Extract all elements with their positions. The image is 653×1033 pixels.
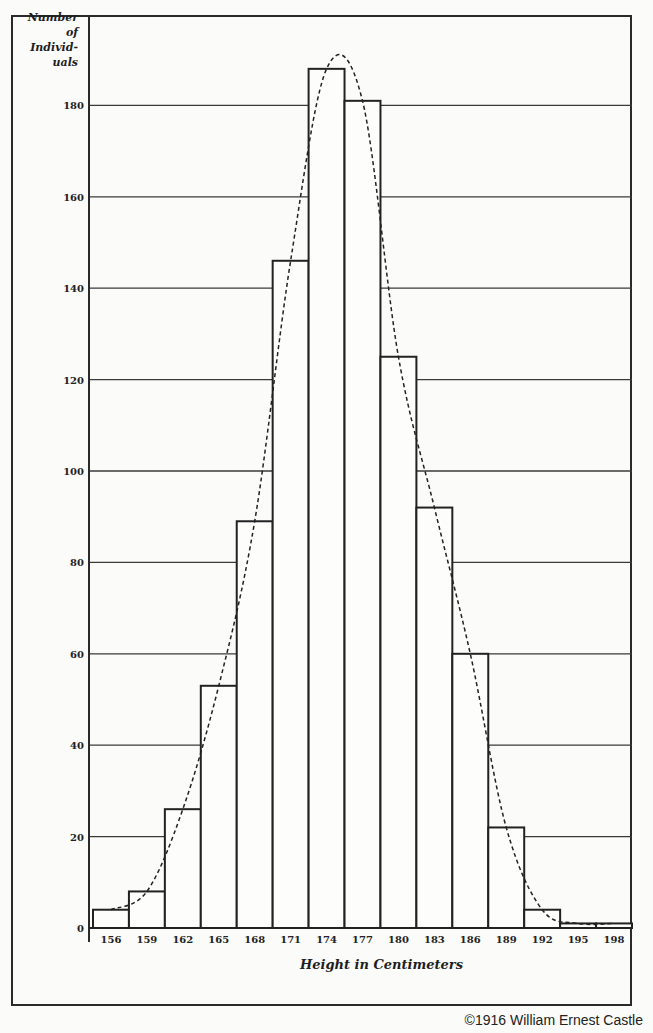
histogram-bar xyxy=(309,69,345,928)
x-axis-label: Height in Centimeters xyxy=(0,957,653,972)
x-tick-label: 168 xyxy=(244,934,265,945)
y-tick-label: 60 xyxy=(70,649,84,660)
x-tick-label: 174 xyxy=(316,934,337,945)
y-tick-label: 40 xyxy=(70,740,84,751)
y-tick-label: 160 xyxy=(63,192,84,203)
y-tick-label: 180 xyxy=(63,100,84,111)
histogram-bar xyxy=(93,910,129,928)
y-tick-label: 80 xyxy=(70,557,84,568)
histogram-bar xyxy=(452,654,488,928)
histogram-bar xyxy=(273,261,309,928)
y-tick-label: 100 xyxy=(63,466,84,477)
y-tick-label: 140 xyxy=(63,283,84,294)
x-tick-label: 192 xyxy=(532,934,553,945)
x-tick-label: 195 xyxy=(568,934,589,945)
histogram-bar xyxy=(345,101,381,928)
y-tick-label: 120 xyxy=(63,375,84,386)
x-tick-label: 171 xyxy=(280,934,301,945)
x-tick-label: 189 xyxy=(496,934,517,945)
histogram-bar xyxy=(488,827,524,928)
x-tick-label: 165 xyxy=(208,934,229,945)
x-tick-label: 183 xyxy=(424,934,445,945)
x-tick-label: 198 xyxy=(604,934,625,945)
x-tick-label: 186 xyxy=(460,934,481,945)
x-tick-label: 180 xyxy=(388,934,409,945)
histogram-plot: 0204060801001201401601801561591621651681… xyxy=(0,0,653,1033)
histogram-bar xyxy=(524,910,560,928)
x-tick-label: 156 xyxy=(101,934,122,945)
x-tick-label: 162 xyxy=(172,934,193,945)
copyright-credit: ©1916 William Ernest Castle xyxy=(465,1012,643,1028)
histogram-bar xyxy=(201,686,237,928)
y-tick-label: 20 xyxy=(70,832,84,843)
histogram-bar xyxy=(129,891,165,928)
histogram-bar xyxy=(416,508,452,928)
histogram-bar xyxy=(380,357,416,928)
x-tick-label: 177 xyxy=(352,934,373,945)
y-tick-label: 0 xyxy=(77,923,84,934)
x-tick-label: 159 xyxy=(136,934,157,945)
histogram-bar xyxy=(237,521,273,928)
histogram-bar xyxy=(165,809,201,928)
